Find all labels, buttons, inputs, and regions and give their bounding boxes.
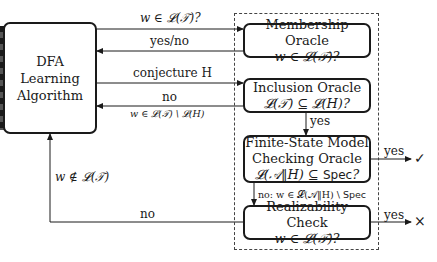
realizability-query: w ∈ 𝓛(𝒯)?	[274, 231, 339, 247]
success-checkmark-icon: ✓	[414, 150, 426, 166]
membership-answer-label: yes/no	[150, 34, 189, 48]
dfa-learning-algorithm-box: DFA Learning Algorithm	[3, 22, 97, 134]
membership-oracle-box: Membership Oracle w ∈ 𝓛(𝒯)?	[243, 23, 371, 58]
mc-oracle-query: 𝓛(𝒜‖H) ⊆ Spec?	[255, 167, 359, 183]
mc-oracle-title-line2: Checking Oracle	[252, 151, 362, 167]
inclusion-oracle-query: 𝓛(𝒯) ⊆ 𝓛(H)?	[264, 96, 350, 112]
realizability-check-box: Realizability Check w ∈ 𝓛(𝒯)?	[243, 205, 371, 240]
mc-no-label: no: w ∈ 𝓛(𝒜‖H) \ Spec	[258, 189, 366, 201]
feedback-not-in-label: w ∉ 𝓛(𝒯)	[55, 170, 109, 184]
failure-cross-icon: ×	[414, 213, 426, 229]
learner-title-line2: Algorithm	[17, 87, 83, 104]
mc-yes-label: yes	[384, 144, 404, 158]
membership-oracle-title: Membership Oracle	[245, 17, 369, 49]
inclusion-oracle-title: Inclusion Oracle	[253, 80, 361, 96]
model-checking-oracle-box: Finite-State Model Checking Oracle 𝓛(𝒜‖H…	[243, 135, 371, 183]
mc-oracle-title-line1: Finite-State Model	[245, 135, 368, 151]
realizability-yes-label: yes	[384, 208, 404, 222]
membership-oracle-query: w ∈ 𝓛(𝒯)?	[274, 49, 339, 65]
learner-title-line1: DFA Learning	[5, 53, 95, 87]
inclusion-yes-label: yes	[310, 114, 330, 128]
realizability-no-label: no	[140, 207, 155, 221]
realizability-title: Realizability Check	[245, 199, 369, 231]
inclusion-counterexample-label: w ∈ 𝓛(𝒯) \ 𝓛(H)	[130, 108, 205, 120]
inclusion-no-label: no	[162, 90, 177, 104]
membership-query-label: w ∈ 𝓛(𝒯)?	[140, 11, 201, 25]
conjecture-label: conjecture H	[133, 66, 212, 80]
inclusion-oracle-box: Inclusion Oracle 𝓛(𝒯) ⊆ 𝓛(H)?	[243, 78, 371, 113]
